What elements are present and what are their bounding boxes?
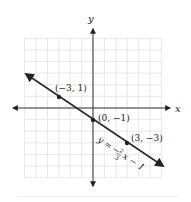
- x-axis-label: x: [175, 103, 181, 114]
- point-3-neg3: [125, 141, 129, 145]
- y-axis-label: y: [87, 13, 94, 24]
- point-neg3-1: [57, 95, 61, 99]
- point-label-neg3-1: (−3, 1): [55, 83, 87, 93]
- point-0-neg1: [91, 118, 95, 122]
- divider: [18, 196, 178, 197]
- point-label-0-neg1: (0, −1): [98, 113, 130, 123]
- point-label-3-neg3: (3, −3): [131, 133, 163, 143]
- coordinate-plane: x y (−3, 1) (0, −1) (3, −3) y = − 2 3 x …: [0, 0, 191, 202]
